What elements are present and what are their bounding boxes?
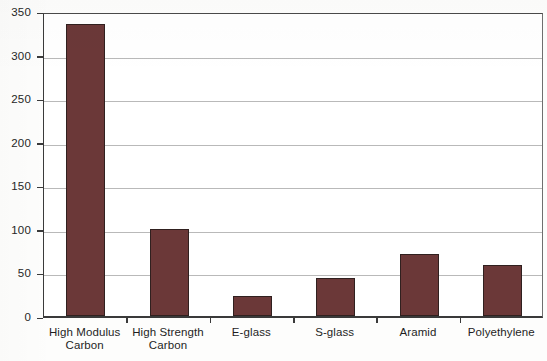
- x-tick-label-line: Carbon: [126, 339, 209, 352]
- x-tick-label: High StrengthCarbon: [126, 326, 209, 352]
- gridline: [44, 232, 542, 233]
- gridline: [44, 275, 542, 276]
- x-tick-label: Aramid: [376, 326, 459, 339]
- x-tick-label-line: Carbon: [43, 339, 126, 352]
- gridline: [44, 58, 542, 59]
- bar: [233, 296, 272, 316]
- y-axis: 050100150200250300350: [0, 0, 43, 361]
- y-tick-label: 50: [18, 268, 31, 280]
- bar: [400, 254, 439, 316]
- bar: [66, 24, 105, 316]
- bar: [483, 265, 522, 316]
- y-tick-label: 250: [11, 94, 31, 106]
- x-tick-mark: [126, 318, 128, 323]
- x-tick-label-line: High Modulus: [49, 326, 121, 338]
- gridline: [44, 188, 542, 189]
- gridline: [44, 145, 542, 146]
- y-tick-label: 300: [11, 51, 31, 63]
- x-tick-mark: [210, 318, 212, 323]
- x-tick-label: High ModulusCarbon: [43, 326, 126, 352]
- y-tick-label: 100: [11, 225, 31, 237]
- y-tick-label: 200: [11, 138, 31, 150]
- y-tick-label: 150: [11, 181, 31, 193]
- x-tick-label-line: Aramid: [399, 326, 436, 338]
- x-axis: High ModulusCarbonHigh StrengthCarbonE-g…: [0, 326, 547, 361]
- x-tick-mark: [460, 318, 462, 323]
- x-tick-mark: [293, 318, 295, 323]
- x-tick-label: S-glass: [293, 326, 376, 339]
- y-tick-label: 0: [24, 312, 31, 324]
- gridline: [44, 101, 542, 102]
- x-tick-label-line: High Strength: [132, 326, 204, 338]
- bar-chart: 050100150200250300350 High ModulusCarbon…: [0, 0, 547, 361]
- x-tick-label-line: Polyethylene: [468, 326, 535, 338]
- bar: [316, 278, 355, 316]
- x-tick-mark: [376, 318, 378, 323]
- bar: [150, 229, 189, 316]
- x-tick-label-line: E-glass: [232, 326, 271, 338]
- x-tick-label: Polyethylene: [460, 326, 543, 339]
- x-tick-label: E-glass: [210, 326, 293, 339]
- x-tick-label-line: S-glass: [315, 326, 354, 338]
- y-tick-label: 350: [11, 7, 31, 19]
- plot-area: [43, 13, 543, 318]
